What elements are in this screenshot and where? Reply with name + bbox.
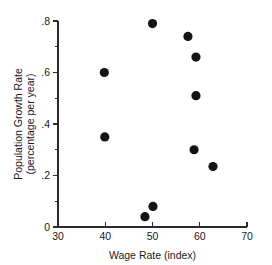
x-tick-label: 40 <box>99 230 111 242</box>
data-point <box>191 91 200 100</box>
x-tick-label: 60 <box>194 230 206 242</box>
tick-labels-group: 0.2.4.6.83040506070 <box>41 15 253 242</box>
x-tick-label: 50 <box>147 230 159 242</box>
y-tick-label: .6 <box>41 66 50 78</box>
y-axis-title-line1: Population Growth Rate <box>12 68 24 180</box>
scatter-plot-figure: 0.2.4.6.83040506070 Wage Rate (index)Pop… <box>0 0 272 265</box>
data-point <box>189 145 198 154</box>
data-point <box>148 19 157 28</box>
data-point <box>100 68 109 77</box>
data-point <box>208 162 217 171</box>
data-point <box>100 132 109 141</box>
x-tick-label: 30 <box>52 230 64 242</box>
x-axis-title: Wage Rate (index) <box>109 249 196 261</box>
x-tick-label: 70 <box>241 230 253 242</box>
data-points-group <box>100 19 218 221</box>
data-point <box>148 202 157 211</box>
chart-canvas: 0.2.4.6.83040506070 Wage Rate (index)Pop… <box>0 0 272 265</box>
ticks-group <box>53 21 247 227</box>
y-tick-label: .8 <box>41 15 50 27</box>
y-tick-label: .2 <box>41 169 50 181</box>
data-point <box>140 212 149 221</box>
y-tick-label: .4 <box>41 118 50 130</box>
data-point <box>191 52 200 61</box>
y-tick-label: 0 <box>44 221 50 233</box>
data-point <box>183 32 192 41</box>
y-axis-title-line2: (percentage per year) <box>24 74 36 175</box>
axes-group <box>58 21 247 227</box>
